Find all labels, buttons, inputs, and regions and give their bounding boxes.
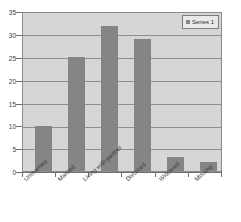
y-axis-label-10: 10 bbox=[2, 123, 16, 130]
x-axis-tick-3 bbox=[121, 173, 122, 177]
chart-legend[interactable]: Series 1 bbox=[182, 15, 219, 29]
y-axis-label-15: 15 bbox=[2, 101, 16, 108]
legend-swatch-icon bbox=[186, 20, 190, 24]
y-axis-labels: 35 30 25 20 15 10 5 0 bbox=[0, 0, 16, 222]
x-axis-tick-6 bbox=[221, 173, 222, 177]
bar-married[interactable] bbox=[68, 57, 85, 171]
y-axis-label-0: 0 bbox=[2, 169, 16, 176]
y-axis-label-25: 25 bbox=[2, 55, 16, 62]
y-axis-label-20: 20 bbox=[2, 78, 16, 85]
legend-label-series-1: Series 1 bbox=[192, 19, 214, 26]
y-axis-label-30: 30 bbox=[2, 32, 16, 39]
x-axis-line bbox=[22, 172, 222, 173]
bar-divorced[interactable] bbox=[134, 39, 151, 171]
y-axis-label-35: 35 bbox=[2, 9, 16, 16]
x-axis-tick-5 bbox=[188, 173, 189, 177]
bar-chart: 35 30 25 20 15 10 5 0 bbox=[0, 0, 241, 222]
y-axis-label-5: 5 bbox=[2, 146, 16, 153]
